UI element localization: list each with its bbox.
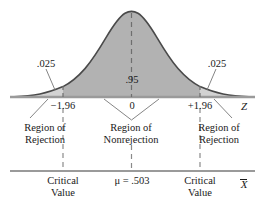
z-tick-label-left: −1.96 xyxy=(43,100,83,111)
right-critical-line2: Value xyxy=(188,187,212,198)
right-area-leader-line xyxy=(207,69,216,90)
left-tail-area-label: .025 xyxy=(27,58,65,69)
right-region-line1: Region of xyxy=(198,122,240,133)
z-tick-label-center: 0 xyxy=(118,100,146,111)
center-region-line1: Region of xyxy=(110,122,152,133)
left-critical-line1: Critical xyxy=(47,175,79,186)
right-region-line2: Rejection xyxy=(199,134,239,145)
left-region-of-rejection-label: Region of Rejection xyxy=(2,122,88,147)
right-tail-area-label: .025 xyxy=(198,58,236,69)
right-region-of-rejection-label: Region of Rejection xyxy=(176,122,262,147)
center-area-label: .95 xyxy=(113,74,151,85)
left-tail-area xyxy=(14,87,63,97)
left-critical-value-label: Critical Value xyxy=(32,175,94,200)
left-region-line2: Rejection xyxy=(25,134,65,145)
left-area-leader-line xyxy=(46,69,55,90)
xbar-symbol: X xyxy=(241,179,248,191)
right-critical-line1: Critical xyxy=(184,175,216,186)
xbar-axis-label: X xyxy=(234,174,254,191)
right-critical-value-label: Critical Value xyxy=(169,175,231,200)
region-of-nonrejection-label: Region of Nonrejection xyxy=(88,122,174,147)
z-axis-label: Z xyxy=(234,101,254,113)
normal-distribution-hypothesis-test-figure: .025 .95 .025 −1.96 0 +1.96 Z Region of … xyxy=(0,0,265,210)
left-region-line1: Region of xyxy=(24,122,66,133)
mean-annotation-label: μ = .503 xyxy=(101,175,163,187)
center-region-line2: Nonrejection xyxy=(104,134,159,145)
z-tick-label-right: +1.96 xyxy=(178,100,222,111)
left-critical-line2: Value xyxy=(51,187,75,198)
